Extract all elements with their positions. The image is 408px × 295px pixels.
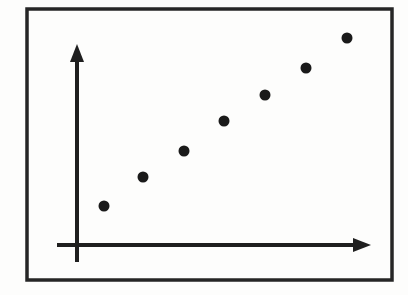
- data-point: (4, 3.65): [219, 116, 230, 127]
- data-point: (7, 6.4): [342, 33, 353, 44]
- data-point: (5, 4.55): [260, 90, 271, 101]
- data-point: (2, 1.85): [138, 172, 149, 183]
- data-point: (1, 1): [99, 201, 110, 212]
- figure-canvas: (1, 1)(2, 1.85)(3, 2.7)(4, 3.65)(5, 4.55…: [0, 0, 408, 295]
- scatter-plot-figure: (1, 1)(2, 1.85)(3, 2.7)(4, 3.65)(5, 4.55…: [0, 0, 408, 295]
- data-point: (6, 5.45): [301, 63, 312, 74]
- figure-background: [0, 0, 408, 295]
- data-point: (3, 2.7): [179, 146, 190, 157]
